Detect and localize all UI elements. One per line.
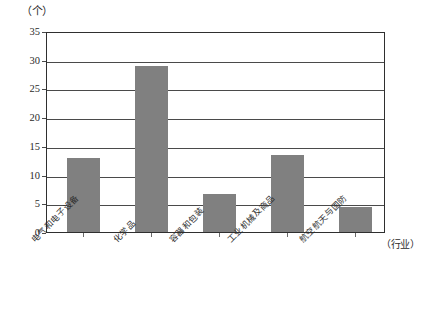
x-tickmark-1 [83, 233, 84, 237]
bar-containers-packaging [203, 194, 236, 232]
bar-industrial-machinery-goods [271, 155, 304, 232]
y-tick-label-5: 5 [14, 199, 40, 210]
x-tickmark-4 [287, 233, 288, 237]
y-axis-unit-label: （个） [21, 6, 53, 17]
y-tick-label-10: 10 [14, 170, 40, 181]
bar-aerospace-defense [339, 207, 372, 232]
x-tickmark-3 [219, 233, 220, 237]
y-tick-label-35: 35 [14, 27, 40, 38]
x-axis-caption: （行业） [381, 240, 419, 250]
y-tick-label-30: 30 [14, 55, 40, 66]
y-tick-label-20: 20 [14, 113, 40, 124]
y-tick-label-25: 25 [14, 84, 40, 95]
y-tick-label-15: 15 [14, 142, 40, 153]
x-tickmark-5 [355, 233, 356, 237]
bar-chemicals [135, 66, 168, 232]
x-tickmark-2 [151, 233, 152, 237]
bar-chart: （个） 35 30 25 20 15 10 5 0 电气和电子设备 化学品 容器… [0, 0, 443, 314]
